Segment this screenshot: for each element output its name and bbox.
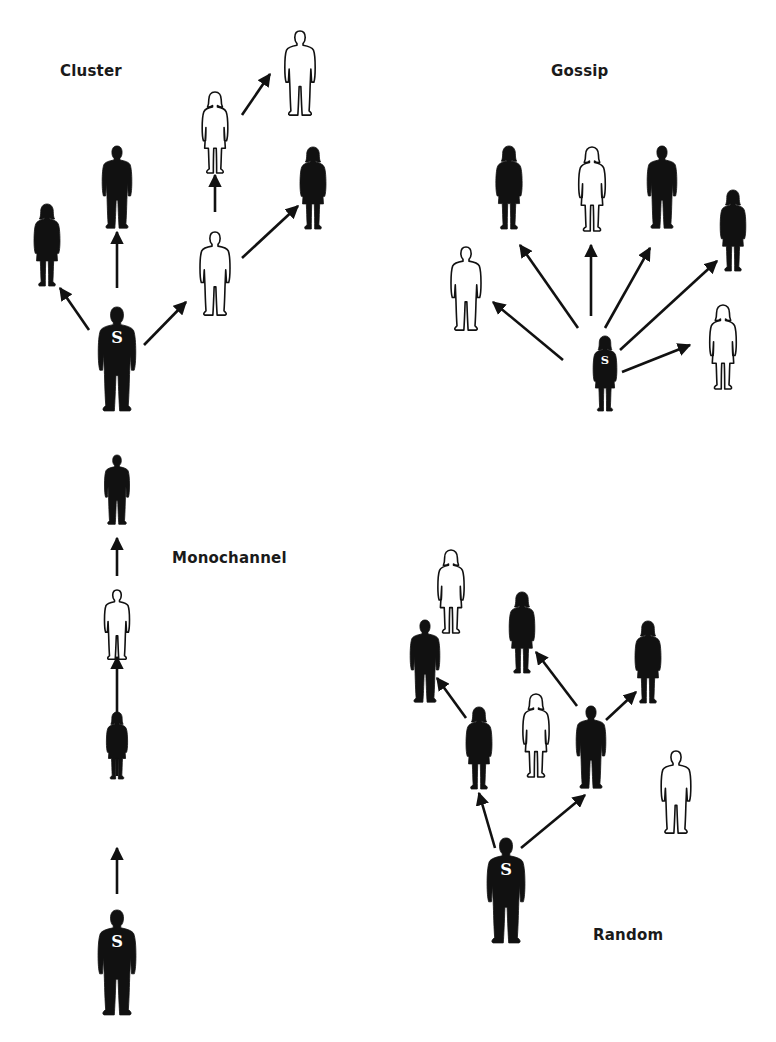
source-woman-black-figure-icon: S [593, 336, 617, 411]
man-white-figure-icon [451, 247, 481, 330]
woman-black-figure-icon [720, 190, 746, 271]
arrows-layer [60, 74, 717, 894]
cluster-arrow [242, 206, 298, 258]
communication-network-diagram: SSSS Cluster Gossip Monochannel Random [0, 0, 776, 1042]
woman-white-figure-icon [710, 305, 737, 389]
panel-label-random: Random [593, 926, 663, 944]
man-white-figure-icon [200, 232, 230, 315]
gossip-arrow [493, 302, 563, 360]
woman-black-figure-icon [466, 707, 492, 789]
source-marker: S [111, 932, 123, 951]
woman-black-figure-icon [34, 204, 60, 286]
panel-label-gossip: Gossip [551, 62, 609, 80]
diagram-canvas: SSSS [0, 0, 776, 1042]
woman-black-figure-icon [496, 146, 522, 229]
man-white-figure-icon [105, 590, 130, 659]
random-arrow [479, 793, 495, 848]
woman-black-figure-icon [509, 592, 535, 673]
figures-layer: SSSS [34, 31, 746, 1015]
gossip-arrow [622, 345, 690, 372]
woman-white-figure-icon [523, 694, 549, 777]
woman-black-figure-icon [635, 621, 661, 703]
cluster-arrow [242, 74, 270, 115]
source-marker: S [500, 860, 512, 879]
woman-white-figure-icon [438, 550, 464, 633]
man-black-figure-icon [410, 620, 440, 702]
man-black-figure-icon [647, 146, 677, 228]
cluster-arrow [144, 302, 186, 345]
cluster-arrow [60, 288, 89, 330]
random-arrow [606, 692, 636, 720]
woman-white-figure-icon [202, 92, 228, 173]
source-marker: S [111, 328, 123, 347]
woman-white-figure-icon [579, 147, 606, 231]
woman-black-figure-icon [300, 147, 326, 229]
source-man-black-figure-icon: S [98, 307, 136, 411]
panel-label-cluster: Cluster [60, 62, 122, 80]
man-black-figure-icon [102, 146, 132, 228]
random-arrow [521, 795, 585, 848]
man-black-figure-icon [105, 455, 130, 524]
man-white-figure-icon [661, 751, 691, 833]
source-man-black-figure-icon: S [487, 838, 525, 943]
random-arrow [437, 678, 466, 718]
panel-label-monochannel: Monochannel [172, 549, 287, 567]
gossip-arrow [520, 245, 578, 328]
man-white-figure-icon [285, 31, 315, 115]
man-black-figure-icon [576, 706, 606, 788]
source-man-black-figure-icon: S [98, 910, 136, 1015]
source-marker: S [601, 353, 609, 367]
gossip-arrow [605, 248, 650, 328]
